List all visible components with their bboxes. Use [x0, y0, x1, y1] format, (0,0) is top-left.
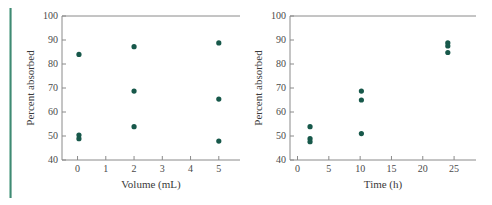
y-tick-label: 90 — [48, 34, 58, 45]
y-tick-label: 70 — [276, 82, 286, 93]
data-point — [307, 124, 312, 129]
y-tick-label: 90 — [276, 34, 286, 45]
data-point — [131, 89, 136, 94]
data-point — [445, 43, 450, 48]
data-point — [307, 139, 312, 144]
y-axis-title: Percent absorbed — [252, 50, 264, 126]
scatter-panel-time: 4050607080901000510152025Time (h)Percent… — [252, 0, 492, 205]
figure-container: 405060708090100012345Volume (mL)Percent … — [0, 0, 492, 205]
scatter-plot-volume: 405060708090100012345Volume (mL)Percent … — [18, 0, 250, 205]
x-tick-label: 2 — [132, 163, 137, 174]
x-tick-label: 10 — [355, 163, 365, 174]
data-point — [131, 44, 136, 49]
y-tick-label: 40 — [276, 154, 286, 165]
left-margin-rule — [9, 8, 12, 198]
x-axis-title: Volume (mL) — [121, 178, 181, 191]
x-tick-label: 1 — [103, 163, 108, 174]
y-tick-label: 100 — [43, 10, 58, 21]
x-axis-title: Time (h) — [364, 178, 403, 191]
x-tick-label: 5 — [216, 163, 221, 174]
data-point — [359, 97, 364, 102]
y-tick-label: 60 — [48, 106, 58, 117]
data-point — [359, 89, 364, 94]
x-tick-label: 15 — [386, 163, 396, 174]
axis-frame — [290, 16, 476, 160]
x-tick-label: 4 — [188, 163, 193, 174]
data-point — [359, 131, 364, 136]
y-axis-title: Percent absorbed — [24, 50, 36, 126]
scatter-plot-time: 4050607080901000510152025Time (h)Percent… — [252, 0, 492, 205]
data-point — [131, 124, 136, 129]
y-tick-label: 80 — [48, 58, 58, 69]
data-point — [445, 50, 450, 55]
data-point — [76, 136, 81, 141]
x-tick-label: 0 — [295, 163, 300, 174]
data-point — [216, 138, 221, 143]
y-tick-label: 50 — [48, 130, 58, 141]
data-point — [216, 40, 221, 45]
x-tick-label: 25 — [449, 163, 459, 174]
data-point — [76, 52, 81, 57]
scatter-panel-volume: 405060708090100012345Volume (mL)Percent … — [18, 0, 250, 205]
x-tick-label: 5 — [326, 163, 331, 174]
axis-frame — [62, 16, 240, 160]
x-tick-label: 20 — [418, 163, 428, 174]
y-tick-label: 60 — [276, 106, 286, 117]
y-tick-label: 100 — [271, 10, 286, 21]
x-tick-label: 0 — [75, 163, 80, 174]
x-tick-label: 3 — [160, 163, 165, 174]
y-tick-label: 50 — [276, 130, 286, 141]
data-point — [216, 96, 221, 101]
y-tick-label: 80 — [276, 58, 286, 69]
y-tick-label: 70 — [48, 82, 58, 93]
y-tick-label: 40 — [48, 154, 58, 165]
